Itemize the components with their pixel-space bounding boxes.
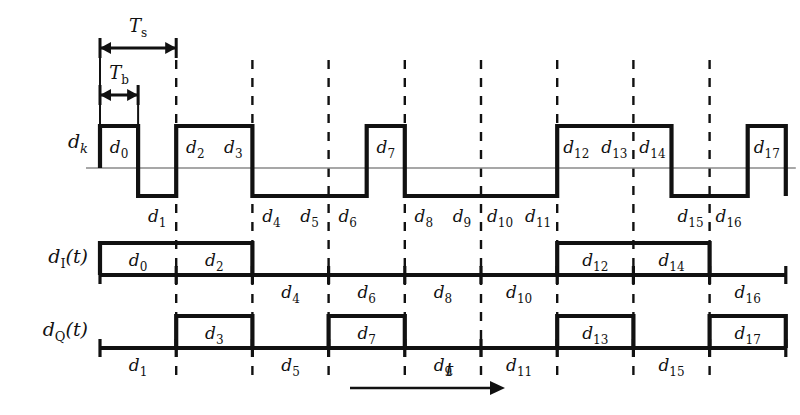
time-axis: t xyxy=(350,358,505,395)
bit-label: d11 xyxy=(525,206,551,230)
ts-arrowhead xyxy=(165,42,176,54)
bit-label: d3 xyxy=(224,137,243,161)
bit-label: d8 xyxy=(434,282,453,306)
bit-label: d17 xyxy=(754,137,780,161)
bit-label: d12 xyxy=(563,137,589,161)
tb-arrowhead xyxy=(100,89,111,101)
bit-label: d4 xyxy=(281,282,300,306)
timing-diagram-figure: TsTb d0d1d2d3d4d5d6d7d8d9d10d11d12d13d14… xyxy=(0,0,800,415)
bit-label: d0 xyxy=(110,137,129,161)
waveform-dk xyxy=(100,126,786,196)
ts-arrowhead xyxy=(100,42,111,54)
bit-label: d5 xyxy=(281,355,300,379)
bit-label: d14 xyxy=(639,137,666,161)
bit-label: d1 xyxy=(129,355,148,379)
time-axis-arrowhead xyxy=(490,381,505,395)
time-axis-label: t xyxy=(446,358,454,380)
ts-label: Ts xyxy=(129,15,147,40)
bit-label: d15 xyxy=(658,355,684,379)
bit-label: d15 xyxy=(677,206,703,230)
bit-label: d7 xyxy=(376,137,395,161)
bit-label: d4 xyxy=(262,206,281,230)
bit-label: d6 xyxy=(357,282,376,306)
tb-label: Tb xyxy=(109,62,129,87)
waveform-dQ xyxy=(100,316,786,348)
row-labels: dkdI(t)dQ(t) xyxy=(43,130,88,344)
bit-label: d8 xyxy=(415,206,434,230)
bit-label: d0 xyxy=(129,250,148,274)
bit-label: d11 xyxy=(506,355,532,379)
row-label-dk: dk xyxy=(68,130,88,156)
bit-label: d10 xyxy=(506,282,532,306)
bit-label: d9 xyxy=(453,206,472,230)
bit-label: d6 xyxy=(338,206,357,230)
tb-arrowhead xyxy=(127,89,138,101)
bit-label: d13 xyxy=(601,137,627,161)
bit-label: d14 xyxy=(658,250,685,274)
timing-diagram-canvas: TsTb d0d1d2d3d4d5d6d7d8d9d10d11d12d13d14… xyxy=(0,0,800,415)
period-annotations: TsTb xyxy=(100,15,176,126)
bit-label: d16 xyxy=(735,282,761,306)
bit-label: d16 xyxy=(716,206,742,230)
bit-label: d10 xyxy=(487,206,513,230)
bit-label: d5 xyxy=(300,206,319,230)
bit-label: d2 xyxy=(205,250,224,274)
row-label-dQ: dQ(t) xyxy=(43,318,88,344)
bit-label: d13 xyxy=(582,323,608,347)
bit-label: d17 xyxy=(735,323,761,347)
bit-label: d12 xyxy=(582,250,608,274)
row-label-dI: dI(t) xyxy=(48,245,88,271)
bit-labels: d0d1d2d3d4d5d6d7d8d9d10d11d12d13d14d15d1… xyxy=(110,137,780,379)
bit-label: d2 xyxy=(186,137,205,161)
bit-label: d3 xyxy=(205,323,224,347)
symbol-boundary-gridlines xyxy=(176,60,709,375)
bit-label: d1 xyxy=(148,206,167,230)
bit-label: d7 xyxy=(357,323,376,347)
